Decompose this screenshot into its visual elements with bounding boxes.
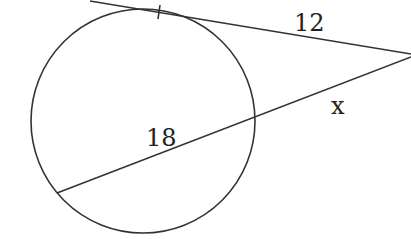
tangent-length-label: 12: [294, 9, 325, 37]
secant-chord-label: 18: [146, 124, 177, 152]
circle: [31, 9, 255, 233]
tangent-secant-diagram: 12 18 x: [0, 0, 411, 239]
secant-external-label: x: [331, 92, 345, 120]
tangent-line: [90, 1, 411, 54]
tangent-point-tick-mark: [158, 5, 160, 19]
secant-line: [57, 57, 411, 193]
